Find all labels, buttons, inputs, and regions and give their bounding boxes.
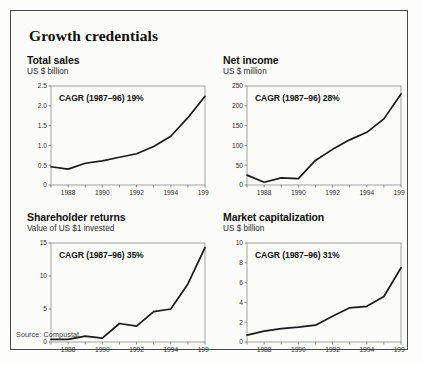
svg-text:8: 8 <box>239 259 243 266</box>
svg-text:6: 6 <box>239 279 243 286</box>
svg-text:0.5: 0.5 <box>38 162 47 169</box>
svg-text:2.5: 2.5 <box>38 82 47 89</box>
plot-area: CAGR (1987–96) 19% 00.51.01.52.02.519881… <box>27 80 209 200</box>
svg-text:1992: 1992 <box>325 189 340 196</box>
svg-text:15: 15 <box>40 239 48 246</box>
svg-text:250: 250 <box>232 82 243 89</box>
svg-text:1990: 1990 <box>291 189 306 196</box>
cagr-annotation: CAGR (1987–96) 19% <box>59 93 144 103</box>
svg-text:200: 200 <box>232 102 243 109</box>
svg-text:1992: 1992 <box>129 346 144 353</box>
svg-text:0: 0 <box>239 181 243 188</box>
page-title: Growth credentials <box>29 27 158 45</box>
chart-panel-market-capitalization: Market capitalization US $ billion CAGR … <box>223 211 405 357</box>
plot-area: CAGR (1987–96) 31% 024681019881990199219… <box>223 237 405 357</box>
chart-title: Market capitalization <box>223 211 405 223</box>
cagr-annotation: CAGR (1987–96) 31% <box>255 250 340 260</box>
svg-text:10: 10 <box>40 272 48 279</box>
svg-text:1992: 1992 <box>325 346 340 353</box>
svg-text:50: 50 <box>236 162 244 169</box>
chart-panel-net-income: Net income US $ million CAGR (1987–96) 2… <box>223 54 405 200</box>
svg-text:1994: 1994 <box>163 189 178 196</box>
svg-text:1988: 1988 <box>61 346 76 353</box>
svg-text:2: 2 <box>239 319 243 326</box>
chart-subtitle: US $ billion <box>27 66 209 77</box>
svg-text:5: 5 <box>43 305 47 312</box>
svg-text:0: 0 <box>43 181 47 188</box>
svg-text:1.5: 1.5 <box>38 122 47 129</box>
svg-text:1992: 1992 <box>129 189 144 196</box>
svg-text:1988: 1988 <box>257 346 272 353</box>
svg-text:1994: 1994 <box>359 189 374 196</box>
chart-subtitle: US $ million <box>223 66 405 77</box>
plot-area: CAGR (1987–96) 28% 050100150200250198819… <box>223 80 405 200</box>
svg-text:2.0: 2.0 <box>38 102 47 109</box>
svg-text:1994: 1994 <box>163 346 178 353</box>
plot-area: CAGR (1987–96) 35% 051015198819901992199… <box>27 237 209 357</box>
svg-text:1996: 1996 <box>198 189 209 196</box>
svg-text:1988: 1988 <box>257 189 272 196</box>
svg-text:1990: 1990 <box>95 346 110 353</box>
svg-text:1994: 1994 <box>359 346 374 353</box>
svg-text:1988: 1988 <box>61 189 76 196</box>
svg-text:1.0: 1.0 <box>38 142 47 149</box>
chart-subtitle: US $ billion <box>223 223 405 234</box>
figure-frame: Growth credentials Total sales US $ bill… <box>10 10 408 350</box>
svg-text:100: 100 <box>232 142 243 149</box>
svg-text:0: 0 <box>239 338 243 345</box>
svg-text:1990: 1990 <box>291 346 306 353</box>
source-note: Source: Compustat <box>16 330 79 339</box>
svg-text:4: 4 <box>239 299 243 306</box>
chart-subtitle: Value of US $1 invested <box>27 223 209 234</box>
cagr-annotation: CAGR (1987–96) 35% <box>59 250 144 260</box>
chart-title: Net income <box>223 54 405 66</box>
chart-title: Shareholder returns <box>27 211 209 223</box>
chart-title: Total sales <box>27 54 209 66</box>
svg-text:1996: 1996 <box>394 189 405 196</box>
chart-panel-total-sales: Total sales US $ billion CAGR (1987–96) … <box>27 54 209 200</box>
svg-text:150: 150 <box>232 122 243 129</box>
svg-text:0: 0 <box>43 338 47 345</box>
svg-text:1996: 1996 <box>394 346 405 353</box>
svg-text:1996: 1996 <box>198 346 209 353</box>
svg-text:10: 10 <box>236 239 244 246</box>
svg-text:1990: 1990 <box>95 189 110 196</box>
cagr-annotation: CAGR (1987–96) 28% <box>255 93 340 103</box>
